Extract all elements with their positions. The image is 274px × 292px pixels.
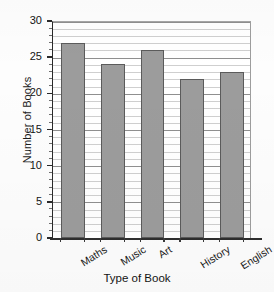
y-tick-label: 10 — [12, 159, 42, 171]
bar — [101, 64, 125, 238]
x-tick — [100, 238, 101, 242]
bar — [61, 43, 85, 238]
x-tick — [60, 238, 61, 242]
x-tick — [124, 238, 125, 242]
bar-series — [53, 22, 250, 238]
x-tick — [203, 238, 204, 242]
bar — [220, 72, 244, 238]
x-tick — [219, 238, 220, 242]
x-category-label: Art — [156, 243, 174, 260]
y-tick-label: 25 — [12, 50, 42, 62]
x-category-label: Maths — [78, 243, 109, 268]
x-tick — [179, 238, 180, 242]
x-axis-line — [50, 238, 262, 240]
x-tick — [140, 238, 141, 242]
x-tick — [243, 238, 244, 242]
y-tick-label: 0 — [12, 231, 42, 243]
y-tick-label: 15 — [12, 123, 42, 135]
x-tick — [163, 238, 164, 242]
bar — [141, 50, 165, 238]
x-category-label: English — [238, 243, 274, 271]
x-category-label: History — [198, 243, 232, 270]
x-tick — [84, 238, 85, 242]
y-tick-label: 5 — [12, 195, 42, 207]
bar — [180, 79, 204, 238]
y-tick-label: 30 — [12, 14, 42, 26]
plot-area — [52, 21, 251, 238]
x-category-label: Music — [118, 243, 148, 268]
x-axis-title: Type of Book — [0, 272, 274, 284]
bar-chart-figure: Number of Books 051015202530 MathsMusicA… — [0, 0, 274, 292]
y-tick-label: 20 — [12, 86, 42, 98]
